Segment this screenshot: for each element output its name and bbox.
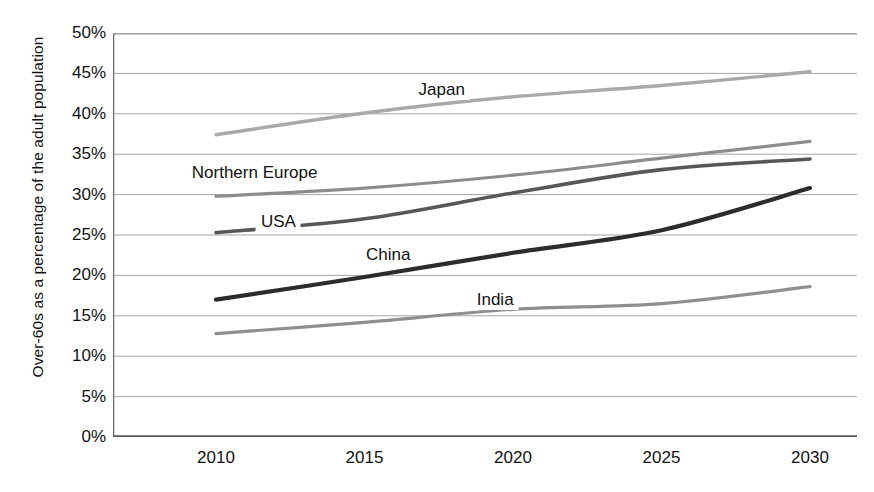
y-axis-tick-25: 25% [54, 225, 106, 245]
y-axis-tick-0: 0% [54, 427, 106, 447]
y-axis-tick-50: 50% [54, 23, 106, 43]
line-chart-svg [113, 33, 857, 437]
x-axis-tick-2030: 2030 [791, 448, 829, 468]
chart-figure: Over-60s as a percentage of the adult po… [0, 0, 874, 492]
y-axis-tick-35: 35% [54, 144, 106, 164]
series-label-india: India [472, 290, 519, 310]
series-line-china [216, 188, 810, 300]
x-axis-tick-2010: 2010 [197, 448, 235, 468]
series-label-usa: USA [256, 212, 301, 232]
series-line-japan [216, 72, 810, 135]
y-axis-tick-10: 10% [54, 346, 106, 366]
y-axis-tick-labels: 0%5%10%15%20%25%30%35%40%45%50% [48, 0, 106, 492]
y-axis-tick-45: 45% [54, 63, 106, 83]
series-label-japan: Japan [414, 80, 470, 100]
x-axis-tick-2015: 2015 [346, 448, 384, 468]
series-label-china: China [361, 245, 415, 265]
x-axis-tick-2020: 2020 [494, 448, 532, 468]
series-label-northern-europe: Northern Europe [187, 163, 323, 183]
y-axis-title: Over-60s as a percentage of the adult po… [29, 0, 47, 427]
gridlines [113, 73, 857, 396]
y-axis-tick-20: 20% [54, 265, 106, 285]
y-axis-tick-40: 40% [54, 104, 106, 124]
y-axis-tick-15: 15% [54, 306, 106, 326]
y-axis-tick-30: 30% [54, 185, 106, 205]
x-axis-tick-2025: 2025 [643, 448, 681, 468]
y-axis-tick-5: 5% [54, 387, 106, 407]
plot-area: JapanNorthern EuropeUSAChinaIndia [113, 33, 857, 437]
